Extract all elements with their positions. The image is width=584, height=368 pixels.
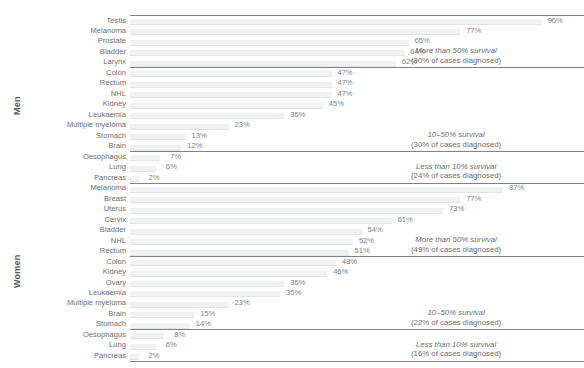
bar xyxy=(130,40,409,46)
bar xyxy=(130,197,460,203)
category-label: Rectum xyxy=(0,247,126,255)
bar xyxy=(130,218,392,224)
band-annotation-subtitle: (30% of cases diagnosed) xyxy=(366,56,546,66)
bar-value-label: 12% xyxy=(187,142,202,150)
band-annotation: Less than 10% survival(24% of cases diag… xyxy=(366,162,546,181)
bar-value-label: 77% xyxy=(466,195,481,203)
category-label: Pancreas xyxy=(0,352,126,360)
bar xyxy=(130,82,332,88)
bar xyxy=(130,312,194,318)
category-label: Brain xyxy=(0,142,126,150)
bar xyxy=(130,50,405,56)
bar xyxy=(130,29,460,35)
band-divider xyxy=(130,361,584,362)
plot-area: 96%77%65%64%62%47%47%47%45%36%23%13%12%7… xyxy=(130,0,584,368)
bar-value-label: 77% xyxy=(466,27,481,35)
category-label: Testis xyxy=(0,17,126,25)
bar-value-label: 36% xyxy=(290,279,305,287)
bar-value-label: 54% xyxy=(367,226,382,234)
bar xyxy=(130,176,139,182)
band-divider xyxy=(130,151,584,152)
bar xyxy=(130,113,284,119)
bar-value-label: 48% xyxy=(342,258,357,266)
category-label: Stomach xyxy=(0,132,126,140)
bar xyxy=(130,302,229,308)
bar xyxy=(130,229,362,235)
category-label: Uterus xyxy=(0,205,126,213)
band-divider xyxy=(130,15,584,16)
category-label: NHL xyxy=(0,237,126,245)
bar xyxy=(130,124,229,130)
category-label: Oesophagus xyxy=(0,153,126,161)
band-annotation: More than 50% survival(49% of cases diag… xyxy=(366,235,546,254)
bar-value-label: 7% xyxy=(170,153,181,161)
bar-value-label: 2% xyxy=(149,352,160,360)
bar-value-label: 23% xyxy=(234,299,249,307)
band-annotation-subtitle: (24% of cases diagnosed) xyxy=(366,171,546,181)
bar-value-label: 2% xyxy=(149,174,160,182)
bar-value-label: 87% xyxy=(509,184,524,192)
bar-value-label: 73% xyxy=(449,205,464,213)
bar-value-label: 45% xyxy=(329,100,344,108)
category-label: Rectum xyxy=(0,79,126,87)
bar-value-label: 13% xyxy=(192,132,207,140)
category-label: Brain xyxy=(0,310,126,318)
bar-value-label: 47% xyxy=(337,69,352,77)
band-annotation: 10–50% survival(30% of cases diagnosed) xyxy=(366,130,546,149)
bar xyxy=(130,239,353,245)
category-label: Melanoma xyxy=(0,184,126,192)
bar-value-label: 14% xyxy=(196,320,211,328)
bar-value-label: 47% xyxy=(337,79,352,87)
bar xyxy=(130,281,284,287)
bar-value-label: 6% xyxy=(166,163,177,171)
category-label: Colon xyxy=(0,69,126,77)
bar-value-label: 47% xyxy=(337,90,352,98)
bar-value-label: 65% xyxy=(415,37,430,45)
band-divider xyxy=(130,67,584,68)
band-divider xyxy=(130,183,584,184)
bar xyxy=(130,344,156,350)
bar xyxy=(130,19,542,25)
bar-value-label: 96% xyxy=(548,17,563,25)
category-label: Breast xyxy=(0,195,126,203)
bar-value-label: 36% xyxy=(290,111,305,119)
band-annotation-title: More than 50% survival xyxy=(366,46,546,56)
bar xyxy=(130,260,336,266)
category-label: Leukaemia xyxy=(0,289,126,297)
band-divider xyxy=(130,256,584,257)
bar-value-label: 46% xyxy=(333,268,348,276)
bar xyxy=(130,187,503,193)
bar xyxy=(130,103,323,109)
bar xyxy=(130,323,190,329)
category-label: Melanoma xyxy=(0,27,126,35)
group-axis-label-men: Men xyxy=(12,99,22,115)
bar xyxy=(130,250,349,256)
band-annotation: Less than 10% survival(16% of cases diag… xyxy=(366,340,546,359)
band-annotation: 10–50% survival(22% of cases diagnosed) xyxy=(366,308,546,327)
bar xyxy=(130,134,186,140)
bar xyxy=(130,166,156,172)
category-label: Lung xyxy=(0,163,126,171)
bar-value-label: 15% xyxy=(200,310,215,318)
category-label: Larynx xyxy=(0,58,126,66)
category-label: Stomach xyxy=(0,320,126,328)
category-label: Lung xyxy=(0,341,126,349)
band-annotation-title: Less than 10% survival xyxy=(366,162,546,172)
bar-value-label: 35% xyxy=(286,289,301,297)
bar xyxy=(130,92,332,98)
bar-value-label: 61% xyxy=(397,216,412,224)
category-label: Cervix xyxy=(0,216,126,224)
bar-value-label: 6% xyxy=(166,341,177,349)
category-label: Multiple myeloma xyxy=(0,299,126,307)
five-year-relative-survival-chart: TestisMelanomaProstateBladderLarynxColon… xyxy=(0,0,584,368)
bar xyxy=(130,333,164,339)
category-label: Prostate xyxy=(0,37,126,45)
band-annotation-subtitle: (22% of cases diagnosed) xyxy=(366,318,546,328)
bar xyxy=(130,71,332,77)
band-annotation-title: 10–50% survival xyxy=(366,130,546,140)
band-annotation-title: 10–50% survival xyxy=(366,308,546,318)
band-annotation-subtitle: (16% of cases diagnosed) xyxy=(366,349,546,359)
category-label-column: TestisMelanomaProstateBladderLarynxColon… xyxy=(0,0,126,368)
bar-value-label: 23% xyxy=(234,121,249,129)
bar xyxy=(130,271,327,277)
